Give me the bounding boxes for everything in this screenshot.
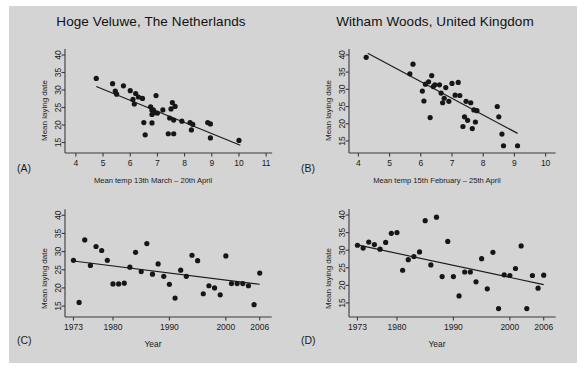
svg-text:6: 6 (128, 158, 133, 168)
panel-b: Witham Woods, United Kingdom (B) Mean la… (293, 6, 577, 184)
panel-b-plot: 15202530354045678910 (293, 6, 577, 184)
svg-text:30: 30 (337, 84, 347, 94)
svg-text:25: 25 (53, 103, 63, 113)
svg-text:7: 7 (450, 158, 455, 168)
svg-text:2000: 2000 (500, 322, 519, 332)
svg-text:1973: 1973 (64, 322, 83, 332)
svg-text:5: 5 (387, 158, 392, 168)
svg-text:20: 20 (337, 119, 347, 129)
svg-text:9: 9 (209, 158, 214, 168)
svg-text:35: 35 (337, 228, 347, 238)
svg-text:1973: 1973 (348, 322, 367, 332)
svg-text:2000: 2000 (216, 322, 235, 332)
svg-text:4: 4 (356, 158, 361, 168)
svg-text:1990: 1990 (444, 322, 463, 332)
svg-text:8: 8 (182, 158, 187, 168)
svg-text:35: 35 (53, 228, 63, 238)
svg-text:6: 6 (418, 158, 423, 168)
svg-text:11: 11 (262, 158, 271, 168)
svg-text:1980: 1980 (104, 322, 123, 332)
svg-text:40: 40 (337, 210, 347, 220)
svg-text:15: 15 (53, 138, 63, 148)
panel-a-plot: 1520253035404567891011 (9, 6, 293, 184)
svg-text:40: 40 (53, 50, 63, 60)
svg-text:25: 25 (337, 263, 347, 273)
panel-d-plot: 15202530354019731980199020002006 (293, 184, 577, 363)
svg-text:4: 4 (74, 158, 79, 168)
svg-text:1990: 1990 (160, 322, 179, 332)
svg-text:15: 15 (337, 298, 347, 308)
svg-text:7: 7 (155, 158, 160, 168)
svg-text:20: 20 (53, 120, 63, 130)
svg-text:40: 40 (53, 210, 63, 220)
svg-text:15: 15 (337, 136, 347, 146)
svg-text:20: 20 (337, 280, 347, 290)
svg-text:9: 9 (512, 158, 517, 168)
panel-c: (C) Mean laying date Year 15202530354019… (9, 184, 293, 363)
figure-container: Hoge Veluwe, The Netherlands (A) Mean la… (9, 6, 577, 363)
svg-text:2006: 2006 (534, 322, 553, 332)
svg-text:30: 30 (53, 247, 63, 257)
svg-text:15: 15 (53, 301, 63, 311)
svg-text:30: 30 (337, 245, 347, 255)
svg-text:20: 20 (53, 283, 63, 293)
svg-text:25: 25 (53, 265, 63, 275)
svg-text:2006: 2006 (250, 322, 269, 332)
svg-text:30: 30 (53, 85, 63, 95)
svg-text:8: 8 (481, 158, 486, 168)
svg-text:1980: 1980 (388, 322, 407, 332)
svg-text:10: 10 (234, 158, 244, 168)
svg-text:5: 5 (101, 158, 106, 168)
svg-text:35: 35 (337, 67, 347, 77)
panel-a: Hoge Veluwe, The Netherlands (A) Mean la… (9, 6, 293, 184)
svg-text:25: 25 (337, 102, 347, 112)
panel-d: (D) Mean laying date Year 15202530354019… (293, 184, 577, 363)
svg-text:10: 10 (541, 158, 551, 168)
svg-text:35: 35 (53, 68, 63, 78)
panel-c-plot: 15202530354019731980199020002006 (9, 184, 293, 363)
svg-text:40: 40 (337, 50, 347, 60)
